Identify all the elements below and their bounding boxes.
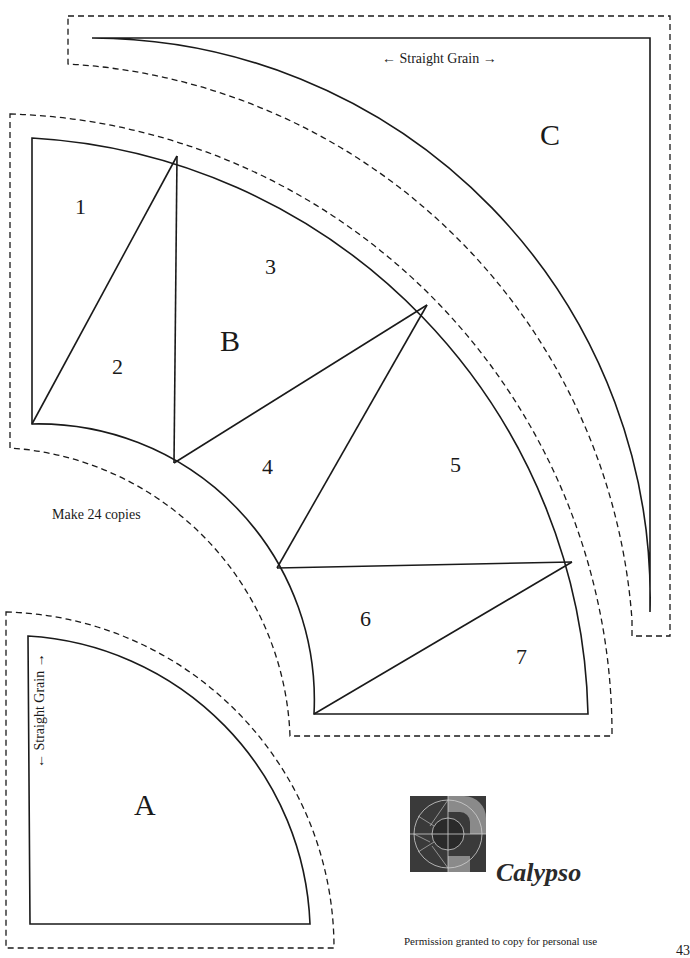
section-4-label: 4	[262, 456, 273, 478]
arrow-down-icon: ←	[32, 754, 47, 768]
arrow-right-icon: →	[483, 51, 497, 66]
calypso-quilt-block-icon	[410, 796, 486, 872]
grain-label-a: ← Straight Grain →	[32, 648, 52, 768]
permission-text: Permission granted to copy for personal …	[404, 936, 597, 947]
template-c-label: C	[540, 120, 560, 150]
page-number: 43	[676, 944, 690, 958]
section-6-label: 6	[360, 608, 371, 630]
section-3-label: 3	[265, 256, 276, 278]
arrow-left-icon: ←	[382, 51, 396, 66]
copies-note: Make 24 copies	[52, 508, 141, 522]
section-7-label: 7	[516, 646, 527, 668]
section-5-label: 5	[450, 454, 461, 476]
template-c	[68, 16, 670, 636]
template-b	[10, 114, 612, 736]
template-b-label: B	[220, 326, 240, 356]
section-1-label: 1	[75, 196, 86, 218]
template-a-label: A	[134, 790, 156, 820]
template-a	[6, 612, 334, 948]
arrow-up-icon: →	[32, 653, 47, 667]
grain-label-c: ← Straight Grain →	[382, 52, 497, 66]
brand-name: Calypso	[496, 858, 581, 888]
section-2-label: 2	[112, 356, 123, 378]
